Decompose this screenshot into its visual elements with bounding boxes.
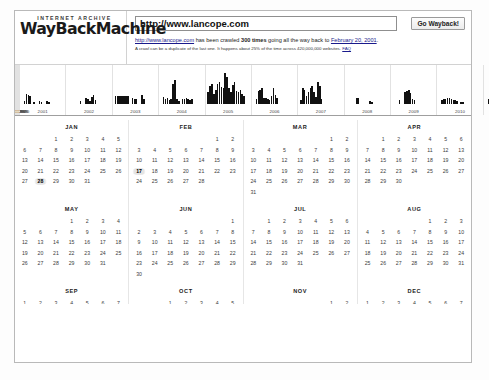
day-cell[interactable]: 17 (453, 239, 469, 246)
day-cell[interactable]: 26 (17, 260, 33, 267)
day-cell[interactable]: 3 (95, 218, 111, 225)
day-cell[interactable]: 17 (246, 168, 262, 175)
day-cell[interactable]: 20 (194, 250, 210, 257)
day-cell[interactable]: 6 (453, 136, 469, 143)
day-cell[interactable]: 13 (33, 239, 49, 246)
day-cell[interactable]: 12 (277, 157, 293, 164)
day-cell[interactable]: 20 (391, 250, 407, 257)
day-cell[interactable]: 10 (131, 157, 147, 164)
day-cell[interactable]: 11 (111, 229, 127, 236)
day-cell[interactable]: 19 (111, 157, 127, 164)
day-cell[interactable]: 2 (339, 300, 355, 304)
day-cell[interactable]: 2 (79, 218, 95, 225)
day-cell[interactable]: 7 (308, 147, 324, 154)
day-cell[interactable]: 27 (178, 178, 194, 185)
day-cell[interactable]: 3 (407, 136, 423, 143)
day-cell[interactable]: 18 (308, 239, 324, 246)
day-cell[interactable]: 26 (178, 260, 194, 267)
year-label-2010[interactable]: 2010 (437, 109, 482, 114)
day-cell[interactable]: 11 (261, 157, 277, 164)
day-cell[interactable]: 16 (391, 157, 407, 164)
day-cell[interactable]: 21 (246, 250, 262, 257)
day-cell[interactable]: 28 (407, 260, 423, 267)
day-cell[interactable]: 16 (64, 157, 80, 164)
day-cell[interactable]: 9 (131, 239, 147, 246)
day-cell[interactable]: 8 (422, 229, 438, 236)
day-cell[interactable]: 4 (261, 147, 277, 154)
day-cell[interactable]: 10 (79, 147, 95, 154)
day-cell[interactable]: 20 (339, 239, 355, 246)
day-cell[interactable]: 29 (64, 260, 80, 267)
day-cell[interactable]: 8 (375, 147, 391, 154)
day-cell[interactable]: 1 (17, 300, 33, 304)
day-cell[interactable]: 13 (453, 147, 469, 154)
day-cell[interactable]: 23 (225, 168, 241, 175)
day-cell[interactable]: 27 (453, 168, 469, 175)
day-cell[interactable]: 10 (407, 147, 423, 154)
day-cell[interactable]: 6 (178, 147, 194, 154)
day-cell[interactable]: 10 (246, 157, 262, 164)
year-label-2002[interactable]: 2002 (66, 109, 111, 114)
day-cell[interactable]: 15 (209, 157, 225, 164)
day-cell[interactable]: 22 (48, 168, 64, 175)
day-cell[interactable]: 14 (407, 239, 423, 246)
day-cell[interactable]: 4 (111, 218, 127, 225)
day-cell[interactable]: 21 (209, 250, 225, 257)
day-cell[interactable]: 26 (162, 178, 178, 185)
day-cell[interactable]: 30 (438, 260, 454, 267)
day-cell[interactable]: 4 (422, 136, 438, 143)
day-cell[interactable]: 17 (79, 157, 95, 164)
day-cell[interactable]: 12 (111, 147, 127, 154)
day-cell[interactable]: 4 (64, 300, 80, 304)
day-cell[interactable]: 26 (375, 260, 391, 267)
day-cell[interactable]: 8 (209, 147, 225, 154)
day-cell[interactable]: 29 (261, 260, 277, 267)
day-cell[interactable]: 2 (438, 218, 454, 225)
day-cell[interactable]: 30 (131, 271, 147, 278)
day-cell[interactable]: 2 (375, 300, 391, 304)
day-cell[interactable]: 25 (422, 168, 438, 175)
day-cell[interactable]: 14 (209, 239, 225, 246)
day-cell[interactable]: 3 (453, 218, 469, 225)
day-cell[interactable]: 16 (438, 239, 454, 246)
day-cell-selected[interactable]: 28 (33, 178, 49, 185)
day-cell[interactable]: 13 (391, 239, 407, 246)
day-cell[interactable]: 27 (391, 260, 407, 267)
day-cell[interactable]: 16 (79, 239, 95, 246)
day-cell[interactable]: 6 (17, 147, 33, 154)
day-cell[interactable]: 21 (308, 168, 324, 175)
day-cell[interactable]: 16 (131, 250, 147, 257)
day-cell[interactable]: 1 (225, 218, 241, 225)
day-cell[interactable]: 10 (453, 229, 469, 236)
year-label-2008[interactable]: 2008 (345, 109, 390, 114)
day-cell[interactable]: 17 (95, 239, 111, 246)
day-cell[interactable]: 31 (292, 260, 308, 267)
day-cell[interactable]: 3 (147, 229, 163, 236)
day-cell[interactable]: 21 (360, 168, 376, 175)
day-cell[interactable]: 25 (111, 250, 127, 257)
day-cell[interactable]: 20 (453, 157, 469, 164)
day-cell[interactable]: 24 (453, 250, 469, 257)
day-cell[interactable]: 23 (79, 250, 95, 257)
day-cell[interactable]: 11 (147, 157, 163, 164)
day-cell[interactable]: 3 (48, 300, 64, 304)
year-column-2011[interactable]: 2011 (484, 65, 489, 115)
day-cell[interactable]: 11 (95, 147, 111, 154)
day-cell[interactable]: 5 (225, 300, 241, 304)
day-cell[interactable]: 19 (324, 239, 340, 246)
day-cell[interactable]: 24 (407, 168, 423, 175)
day-cell[interactable]: 18 (111, 239, 127, 246)
day-cell[interactable]: 6 (292, 147, 308, 154)
day-cell-selected[interactable]: 17 (131, 168, 147, 175)
day-cell[interactable]: 14 (194, 157, 210, 164)
day-cell[interactable]: 25 (360, 260, 376, 267)
day-cell[interactable]: 2 (64, 136, 80, 143)
day-cell[interactable]: 7 (407, 229, 423, 236)
day-cell[interactable]: 14 (360, 157, 376, 164)
day-cell[interactable]: 19 (17, 250, 33, 257)
day-cell[interactable]: 1 (324, 136, 340, 143)
day-cell[interactable]: 15 (422, 239, 438, 246)
day-cell[interactable]: 30 (79, 260, 95, 267)
day-cell[interactable]: 18 (95, 157, 111, 164)
day-cell[interactable]: 18 (147, 168, 163, 175)
